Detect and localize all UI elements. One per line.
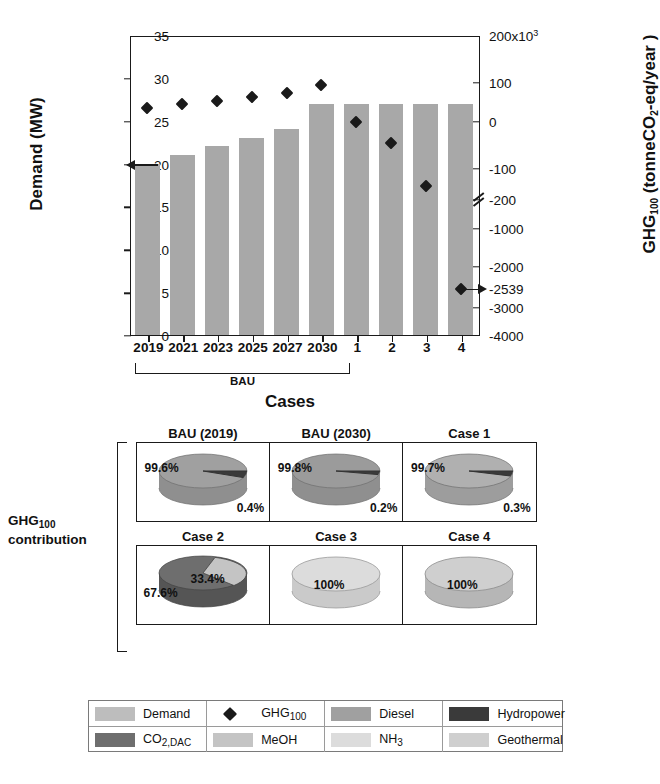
nh3-swatch	[331, 733, 371, 747]
ghg-marker-case-2	[385, 137, 398, 150]
x-tick-2021: 2021	[168, 340, 198, 355]
ghg-marker-2025	[245, 91, 258, 104]
y-axis-left-label: Demand (MW)	[27, 54, 47, 254]
diesel-swatch	[331, 707, 371, 721]
ghg-marker-case-1	[350, 116, 363, 129]
pie-panel-title: BAU (2030)	[270, 426, 403, 441]
pie-panel-bau-2030: BAU (2030) 99.8% 0.2%	[269, 442, 404, 522]
legend-item-geothermal: Geothermal	[443, 727, 562, 752]
pie-label-minor: 0.2%	[370, 501, 397, 515]
x-tick-case-3: 3	[423, 340, 431, 355]
pie-panel-title: Case 4	[403, 529, 536, 544]
ghg-marker-layer	[130, 36, 480, 336]
co2dac-swatch	[95, 733, 135, 747]
legend-item-co2dac: CO2,DAC	[89, 727, 207, 752]
legend-item-hydropower: Hydropower	[443, 701, 562, 726]
pie-label-major: 99.6%	[145, 461, 179, 475]
pie-label-major: 99.7%	[411, 461, 445, 475]
pie-panel-case-2: Case 2 67.6% 33.4%	[136, 545, 271, 625]
legend-item-meoh: MeOH	[207, 727, 325, 752]
pie-panel-title: Case 3	[270, 529, 403, 544]
y-tick-right-neg2000: -2000	[489, 260, 524, 275]
ghg-marker-2021	[176, 98, 189, 111]
x-tick-case-4: 4	[458, 340, 466, 355]
pie-label-major: 100%	[314, 578, 345, 592]
pie-section-label: GHG100 contribution	[8, 513, 116, 548]
pie-row-top: BAU (2019) 99.6% 0.4% BAU (203	[137, 442, 541, 522]
y-tick-right-100: 100	[489, 76, 512, 91]
legend-label: Hydropower	[497, 707, 564, 721]
meoh-swatch	[213, 733, 253, 747]
pie-label-major: 99.8%	[278, 461, 312, 475]
pie-grid: BAU (2019) 99.6% 0.4% BAU (203	[137, 442, 541, 625]
x-tick-2025: 2025	[238, 340, 268, 355]
pie-section: GHG100 contribution BAU (2019)	[0, 420, 651, 682]
pie-section-bracket	[117, 442, 127, 652]
legend-item-demand: Demand	[89, 701, 207, 726]
y-tick-right-neg2539: -2539	[489, 282, 524, 297]
ghg-marker-2023	[211, 94, 224, 107]
cropped-title-text	[40, 0, 46, 7]
x-tick-case-2: 2	[388, 340, 396, 355]
x-tick-2023: 2023	[203, 340, 233, 355]
x-tick-case-1: 1	[353, 340, 361, 355]
legend-row-1: Demand GHG100 Diesel Hydropower	[89, 701, 562, 727]
demand-swatch	[95, 707, 135, 721]
x-tick-2030: 2030	[307, 340, 337, 355]
legend-item-nh3: NH3	[325, 727, 443, 752]
legend-item-ghg100: GHG100	[207, 701, 325, 726]
legend-label: GHG100	[261, 706, 306, 722]
ghg-marker-case-3	[419, 180, 432, 193]
x-tick-2027: 2027	[273, 340, 303, 355]
ghg-diamond-icon	[213, 707, 253, 721]
pie-label-minor: 0.4%	[237, 501, 264, 515]
legend-label: Demand	[143, 707, 190, 721]
x-tick-2019: 2019	[133, 340, 163, 355]
ghg-marker-2019	[141, 102, 154, 115]
y-tick-right-neg100: -100	[489, 162, 516, 177]
legend-label: CO2,DAC	[143, 732, 191, 748]
legend-label: Geothermal	[497, 733, 562, 747]
pie-panel-case-3: Case 3 100%	[269, 545, 404, 625]
pie-panel-bau-2019: BAU (2019) 99.6% 0.4%	[136, 442, 271, 522]
legend-item-diesel: Diesel	[325, 701, 443, 726]
y-tick-right-neg3000: -3000	[489, 301, 524, 316]
y-tick-right-200k: 200x103	[489, 28, 538, 44]
hydropower-swatch	[449, 707, 489, 721]
legend: Demand GHG100 Diesel Hydropower CO2,DAC …	[88, 700, 563, 752]
ghg-marker-2027	[280, 87, 293, 100]
legend-label: MeOH	[261, 733, 297, 747]
bau-bracket	[135, 363, 350, 374]
x-axis-label: Cases	[160, 392, 420, 412]
y-tick-right-0: 0	[489, 115, 497, 130]
pie-label-major: 67.6%	[144, 586, 178, 600]
ghg-marker-2030	[315, 79, 328, 92]
pie-row-bottom: Case 2 67.6% 33.4% Case 3	[137, 546, 541, 625]
bar-chart-panel: Demand (MW) GHG100 (tonneCO2-eq/year ) 0…	[0, 14, 651, 414]
pie-label-major: 100%	[447, 578, 478, 592]
pie-panel-title: Case 2	[137, 529, 270, 544]
legend-label: Diesel	[379, 707, 414, 721]
pie-panel-case-1: Case 1 99.7% 0.3%	[402, 442, 537, 522]
pie-panel-title: Case 1	[403, 426, 536, 441]
pie-label-minor: 0.3%	[503, 501, 530, 515]
y-axis-right-label: GHG100 (tonneCO2-eq/year )	[640, 14, 660, 274]
pie-panel-case-4: Case 4 100%	[402, 545, 537, 625]
legend-row-2: CO2,DAC MeOH NH3 Geothermal	[89, 727, 562, 752]
y-tick-right-neg4000: -4000	[489, 329, 524, 344]
bau-bracket-label: BAU	[135, 375, 350, 387]
pie-panel-title: BAU (2019)	[137, 426, 270, 441]
y-tick-right-neg1000: -1000	[489, 222, 524, 237]
y-tick-right-neg200: -200	[489, 193, 516, 208]
legend-label: NH3	[379, 732, 403, 748]
pie-label-minor: 33.4%	[191, 572, 225, 586]
geothermal-swatch	[449, 733, 489, 747]
cropped-title-artifact	[0, 0, 651, 14]
